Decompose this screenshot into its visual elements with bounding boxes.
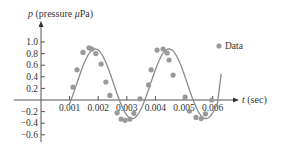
y-tick-label: −0.4 <box>21 118 38 128</box>
data-point <box>93 51 98 56</box>
legend: Data <box>216 41 243 51</box>
data-point <box>199 116 204 121</box>
x-tick-label: 0.001 <box>59 103 81 113</box>
y-axis-label: p (pressure μPa) <box>27 8 93 20</box>
data-point <box>89 46 94 51</box>
y-tick-label: 0.4 <box>26 72 38 82</box>
data-point <box>74 67 79 72</box>
data-point <box>137 96 142 101</box>
data-point <box>127 117 132 122</box>
y-tick-label: −0.2 <box>21 107 38 117</box>
legend-marker-icon <box>216 43 221 48</box>
pressure-chart: −0.6−0.4−0.20.20.40.60.81.0 0.0010.0020.… <box>0 0 281 154</box>
data-point <box>131 111 136 116</box>
y-tick-label: 0.8 <box>26 49 38 59</box>
x-tick-label: 0.002 <box>88 103 110 113</box>
data-point <box>123 118 128 123</box>
y-axis-arrow-icon <box>39 21 44 27</box>
data-point <box>149 67 154 72</box>
data-point <box>107 93 112 98</box>
y-tick-label: −0.6 <box>21 130 38 140</box>
x-tick-label: 0.004 <box>145 103 167 113</box>
data-point <box>193 115 198 120</box>
y-tick-label: 1.0 <box>26 37 38 47</box>
data-point <box>167 57 172 62</box>
legend-label: Data <box>225 41 244 51</box>
data-point <box>115 110 120 115</box>
data-point <box>70 85 75 90</box>
data-point <box>161 46 166 51</box>
data-point <box>103 79 108 84</box>
y-tick-label: 0.2 <box>26 84 38 94</box>
data-point <box>203 111 208 116</box>
data-point <box>80 50 85 55</box>
x-axis-arrow-icon <box>233 98 239 103</box>
x-axis-label: t (sec) <box>242 94 267 106</box>
data-point <box>155 48 160 53</box>
data-point <box>183 95 188 100</box>
data-point <box>209 97 214 102</box>
data-point <box>187 108 192 113</box>
y-tick-label: 0.6 <box>26 60 38 70</box>
data-point <box>99 61 104 66</box>
data-point <box>165 50 170 55</box>
data-point <box>146 82 151 87</box>
data-point <box>171 73 176 78</box>
axes: −0.6−0.4−0.20.20.40.60.81.0 0.0010.0020.… <box>14 21 239 142</box>
